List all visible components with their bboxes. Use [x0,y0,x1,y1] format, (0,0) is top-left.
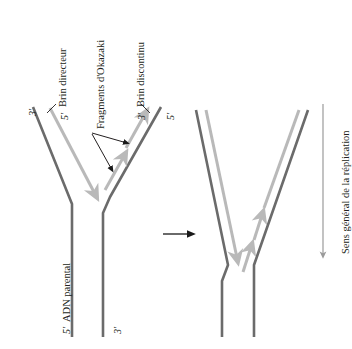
parental-strand-right [103,107,161,337]
okazaki-leader-line-1 [92,133,127,143]
okazaki-fragment-advanced-2 [243,247,251,272]
label-parental-dna: ADN parental [62,263,73,322]
prime-label-bottom-left: 5' [62,327,72,334]
label-lagging-strand: Brin discontinu [136,42,147,107]
right-fork-group [196,110,308,337]
prime-label-inner-left: 5' [60,113,70,120]
okazaki-leader-line-2 [92,134,112,170]
label-leading-strand: Brin directeur [58,48,69,107]
replication-fork-diagram [0,0,352,349]
prime-label-outer-left: 3' [28,109,38,116]
label-replication-direction: Sens général de la réplication [341,130,352,254]
prime-label-outer-right: 5' [166,113,176,120]
parental-strand-right-advanced [254,110,308,337]
leading-strand-arrow [50,108,95,194]
okazaki-fragment-advanced-1 [254,215,262,240]
lagging-strand-segment-advanced [264,110,299,208]
okazaki-fragment-1 [105,156,124,190]
prime-label-bottom-right: 3' [113,327,123,334]
label-okazaki-fragments: Fragments d'Okazaki [96,40,107,129]
prime-label-inner-right: 3' [137,113,147,120]
left-fork-group [33,104,161,337]
